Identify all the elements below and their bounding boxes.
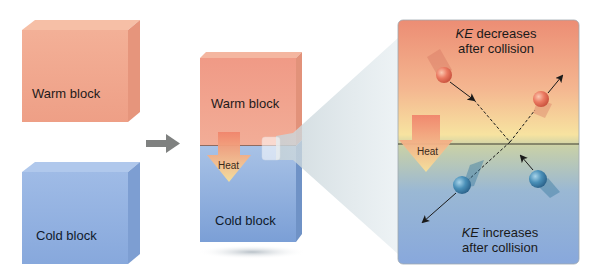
ke-decreases-em: KE: [456, 26, 473, 41]
cold-cube-left: [22, 162, 140, 264]
ke-increases-text: KE increases after collision: [430, 225, 570, 255]
ke-increases-em: KE: [462, 225, 479, 240]
warm-block-left-label: Warm block: [32, 86, 100, 101]
right-arrow-icon: [146, 134, 180, 153]
block-shadow: [197, 245, 307, 259]
ke-decreases-line2: after collision: [458, 41, 534, 56]
zoom-region-marker: [262, 137, 280, 160]
warm-cube-left: [22, 20, 140, 122]
warm-block-middle-label: Warm block: [211, 96, 279, 111]
ke-increases-line2: after collision: [462, 240, 538, 255]
ke-increases-rest: increases: [479, 225, 538, 240]
heat-label-middle: Heat: [218, 160, 239, 171]
cold-block-middle-label: Cold block: [215, 213, 276, 228]
ke-decreases-rest: decreases: [473, 26, 537, 41]
cold-block-left-label: Cold block: [36, 228, 97, 243]
ke-decreases-text: KE decreases after collision: [426, 26, 566, 56]
heat-label-panel: Heat: [417, 146, 438, 157]
